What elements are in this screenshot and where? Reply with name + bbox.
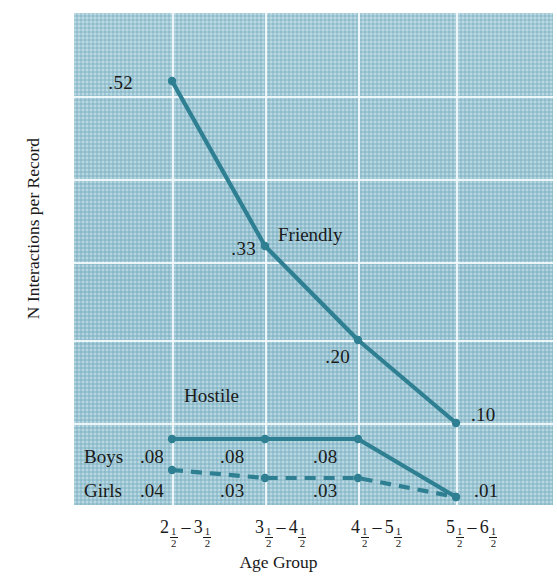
series-point-girls-4	[452, 493, 460, 501]
legend-item-girls: Girls	[84, 481, 122, 500]
legend-item-boys: Boys	[84, 447, 123, 466]
series-point-boys-2	[261, 435, 269, 443]
series-point-friendly-4	[452, 419, 460, 427]
x-tick-4-b-frac: 12	[489, 526, 497, 549]
x-tick-3-b-whole: 5	[385, 517, 394, 537]
x-tick-2-sep: –	[273, 517, 288, 537]
x-tick-2-a-frac: 12	[265, 526, 273, 549]
series-annotation-friendly: Friendly	[278, 225, 342, 244]
value-label-friendly-3: .20	[325, 347, 350, 366]
x-tick-3-b-frac: 12	[394, 526, 402, 549]
y-axis-title: N Interactions per Record	[23, 114, 44, 344]
chart-root: .60 .50 .40 .30 .20 .10 .00 N Interactio…	[0, 0, 557, 578]
series-layer	[74, 13, 553, 505]
x-tick-4-a-whole: 5	[446, 517, 455, 537]
x-tick-2-b-whole: 4	[289, 517, 298, 537]
value-label-boys-2: .08	[220, 447, 245, 466]
x-tick-label-3: 412–512	[351, 517, 403, 549]
x-tick-4-a-frac: 12	[456, 526, 464, 549]
value-label-girls-3: .03	[313, 481, 338, 500]
value-label-friendly-4: .10	[471, 405, 496, 424]
x-tick-4-sep: –	[464, 517, 479, 537]
plot-area: .52 .33 .20 .10 .08 .08 .03 .03 .01 Frie…	[74, 13, 553, 505]
x-tick-2-b-frac: 12	[298, 526, 306, 549]
series-point-boys-1	[168, 435, 176, 443]
x-tick-3-a-frac: 12	[361, 526, 369, 549]
legend-value-boys: .08	[140, 447, 164, 466]
x-tick-label-1: 212–312	[160, 517, 212, 549]
series-line-friendly	[172, 81, 456, 423]
series-annotation-hostile: Hostile	[184, 386, 239, 405]
x-tick-2-a-whole: 3	[255, 517, 264, 537]
series-point-friendly-2	[261, 242, 269, 250]
x-tick-4-b-whole: 6	[480, 517, 489, 537]
x-axis-title: Age Group	[0, 552, 557, 573]
value-label-friendly-2: .33	[231, 239, 256, 258]
x-tick-3-sep: –	[369, 517, 384, 537]
value-label-girls-2: .03	[220, 481, 245, 500]
series-point-girls-2	[261, 474, 269, 482]
x-tick-1-sep: –	[178, 517, 193, 537]
x-tick-3-a-whole: 4	[351, 517, 360, 537]
value-label-friendly-1: .52	[108, 73, 133, 92]
x-tick-1-b-frac: 12	[203, 526, 211, 549]
x-tick-1-b-whole: 3	[194, 517, 203, 537]
value-label-last-low: .01	[474, 481, 499, 500]
x-tick-label-2: 312–412	[255, 517, 307, 549]
series-point-friendly-1	[168, 77, 176, 85]
x-tick-1-a-frac: 12	[170, 526, 178, 549]
legend-value-girls: .04	[140, 481, 164, 500]
series-point-friendly-3	[354, 336, 362, 344]
value-label-boys-3: .08	[313, 447, 338, 466]
x-tick-1-a-whole: 2	[160, 517, 169, 537]
series-point-girls-1	[168, 466, 176, 474]
series-point-boys-3	[354, 435, 362, 443]
series-point-girls-3	[354, 474, 362, 482]
x-tick-label-4: 512–612	[446, 517, 498, 549]
